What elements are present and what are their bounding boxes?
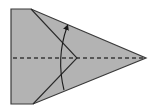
origami-diagram <box>0 0 157 112</box>
